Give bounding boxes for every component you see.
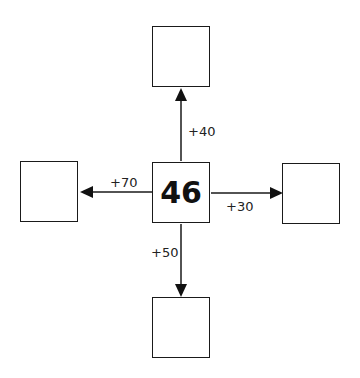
operation-label-down: +50 [151,245,178,260]
operation-label-right: +30 [226,199,253,214]
result-box-left[interactable] [20,161,78,222]
center-box: 46 [152,162,210,223]
result-box-down[interactable] [152,297,210,358]
result-box-right[interactable] [282,163,340,224]
result-box-up[interactable] [152,26,210,87]
arrow-up-head [175,88,187,101]
operation-label-left: +70 [110,175,137,190]
operation-label-up: +40 [188,124,215,139]
arrow-left-head [80,186,93,198]
center-value: 46 [160,175,202,210]
arrow-down-head [175,284,187,297]
